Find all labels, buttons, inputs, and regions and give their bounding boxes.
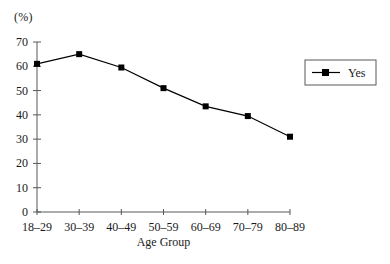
y-axis-tick-label: 30 (16, 132, 28, 146)
y-axis-tick-label: 0 (22, 205, 28, 219)
x-axis-tick-label: 50–59 (149, 220, 179, 234)
data-point-marker (161, 85, 167, 91)
data-point-marker (203, 103, 209, 109)
legend-marker-swatch (322, 69, 329, 76)
y-axis-tick-label: 40 (16, 108, 28, 122)
x-axis-tick-label: 30–39 (64, 220, 94, 234)
y-axis-tick-labels: 010203040506070 (16, 35, 28, 219)
x-axis: 18–2930–3940–4950–5960–6970–7980–89 (22, 209, 305, 234)
series-markers-yes (34, 51, 293, 140)
y-axis-tick-label: 20 (16, 156, 28, 170)
x-axis-tick-label: 18–29 (22, 220, 52, 234)
data-point-marker (245, 113, 251, 119)
x-axis-tick-labels: 18–2930–3940–4950–5960–6970–7980–89 (22, 220, 305, 234)
legend: Yes (305, 60, 376, 85)
y-axis-tick-label: 70 (16, 35, 28, 49)
data-point-marker (76, 51, 82, 57)
x-axis-title: Age Group (137, 235, 191, 249)
data-point-marker (34, 61, 40, 67)
data-series-yes (34, 51, 293, 140)
y-axis-tick-label: 60 (16, 59, 28, 73)
data-point-marker (287, 134, 293, 140)
y-axis-tick-label: 10 (16, 181, 28, 195)
x-axis-tick-label: 80–89 (275, 220, 305, 234)
x-axis-tick-label: 40–49 (106, 220, 136, 234)
data-point-marker (118, 65, 124, 71)
x-axis-tick-label: 60–69 (191, 220, 221, 234)
chart-plot-area: 010203040506070 18–2930–3940–4950–5960–6… (0, 0, 390, 264)
series-line-yes (37, 54, 290, 137)
legend-label-yes: Yes (348, 66, 366, 80)
line-chart: (%) 010203040506070 18–2930–3940–4950–59… (0, 0, 390, 264)
y-axis-tick-label: 50 (16, 84, 28, 98)
x-axis-tick-label: 70–79 (233, 220, 263, 234)
